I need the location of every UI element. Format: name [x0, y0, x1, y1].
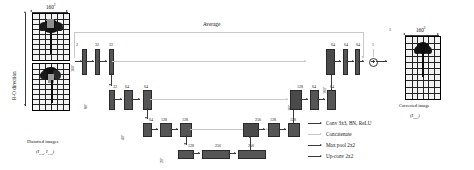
input-level1-res-label: 1602 [71, 65, 75, 72]
distorted-images-symbol: (IPA0, INA0) [36, 150, 54, 156]
dec-l1-ch-2: 64 [356, 43, 360, 47]
enc-l1-ch-1: 32 [95, 43, 99, 47]
output-channel-label: 1 [389, 28, 391, 32]
legend-label-upconv: Up-conv 2x2 [326, 153, 353, 159]
maxpool-arrowhead-icon [320, 144, 322, 146]
upconv-l2-l1 [331, 73, 332, 90]
skip-level2-head [286, 98, 288, 100]
ro-direction-axis [25, 13, 26, 106]
dec-l1-conn-2-head [362, 60, 364, 62]
residual-sum-node [369, 58, 378, 67]
enc-l3-ch-0: 64 [149, 118, 153, 122]
dec-l2-block-1 [310, 90, 319, 110]
enc-l4-ch-0: 128 [188, 144, 194, 148]
legend-label-maxpool: Max pool 2x2 [326, 142, 355, 148]
dec-l1-conn-0-head [339, 60, 341, 62]
enc-l1-ch-2: 32 [109, 43, 113, 47]
output-conn-head [385, 60, 387, 62]
average-skip-drop [363, 32, 364, 58]
pool-l2-l3-head [145, 117, 147, 119]
dec-l1-block-2 [355, 49, 360, 75]
enc-l3-block-0 [143, 123, 152, 137]
corrected-image-symbol: (IPRE) [410, 114, 420, 120]
dec-l1-ch-3: 1 [372, 43, 374, 47]
enc-l1-conn-0-head [92, 60, 94, 62]
enc-l3-conn-0-head [156, 128, 158, 130]
dec-l2-ch-0: 128 [297, 85, 303, 89]
enc-l3-res-label: 402 [121, 135, 125, 140]
average-skip-riser [74, 32, 75, 58]
enc-l4-block-2 [238, 150, 266, 159]
ro-direction-arrowhead-down [24, 104, 26, 106]
residual-drop [373, 49, 374, 57]
average-skip-line [74, 32, 363, 33]
dec-l3-block-0 [243, 123, 259, 137]
enc-l2-ch-0: 32 [113, 85, 117, 89]
dec-l3-conn-0-head [263, 128, 265, 130]
enc-l4-conn-1-head [234, 152, 236, 154]
enc-l4-block-0 [178, 150, 194, 159]
upconv-l4-l3 [250, 138, 251, 150]
enc-l2-res-label: 802 [84, 104, 88, 109]
dec-l2-conn-0-head [306, 98, 308, 100]
conv-arrowhead-icon [320, 122, 322, 124]
distorted-image-na [32, 63, 70, 111]
enc-l1-ch-0: 2 [76, 43, 78, 47]
input-width-arrowhead-left [30, 10, 32, 12]
legend-label-concat: Concatenate [326, 131, 352, 137]
pool-l3-l4-head [184, 143, 186, 145]
enc-l3-block-1 [160, 123, 172, 137]
enc-l4-block-1 [202, 150, 230, 159]
output-size-label: 1602 [416, 27, 426, 33]
enc-l4-ch-2: 256 [248, 144, 254, 148]
enc-l4-ch-1: 256 [215, 144, 221, 148]
enc-l3-conn-1-head [176, 128, 178, 130]
distorted-images-caption: Distorted images [27, 140, 58, 145]
pool-l1-l2-head [109, 84, 111, 86]
figure-canvas: 1602 R-O direction [0, 0, 474, 170]
dec-l1-res-label: 1602 [323, 87, 327, 94]
dec-l1-ch-1: 64 [344, 43, 348, 47]
dec-l1-block-0 [326, 49, 335, 75]
enc-l2-conn-1-head [138, 98, 140, 100]
enc-l2-ch-1: 64 [125, 85, 129, 89]
enc-l1-in-arrowhead [80, 60, 82, 62]
skip-level1 [112, 61, 306, 62]
dec-l3-block-2 [288, 123, 300, 137]
enc-l3-ch-2: 128 [182, 118, 188, 122]
enc-l2-block-2 [143, 90, 152, 110]
skip-level1-head [304, 60, 306, 62]
dec-l3-block-1 [268, 123, 280, 137]
dec-l1-ch-0: 64 [331, 43, 335, 47]
enc-l4-res-label: 202 [160, 158, 164, 163]
distorted-image-pa [32, 13, 70, 61]
dec-l2-block-0 [290, 90, 302, 110]
dec-l2-block-2 [327, 90, 336, 110]
enc-l1-block-1 [95, 49, 100, 75]
average-label: Average [203, 22, 220, 27]
average-skip-arrowhead [362, 56, 364, 58]
skip-level2 [150, 99, 288, 100]
input-size-label: 1602 [46, 4, 56, 10]
enc-l2-conn-0-head [120, 98, 122, 100]
dec-l2-ch-1: 64 [312, 85, 316, 89]
enc-l1-block-2 [109, 49, 114, 75]
dec-l3-ch-1: 128 [270, 118, 276, 122]
enc-l1-block-0 [82, 49, 87, 75]
dec-l3-ch-0: 256 [255, 118, 261, 122]
output-width-arrowhead-left [403, 33, 405, 35]
concat-arrowhead-icon [320, 133, 322, 135]
dec-l1-block-1 [343, 49, 348, 75]
enc-l2-block-1 [124, 90, 133, 110]
legend-label-conv: Conv 3x3, BN, ReLU [326, 120, 371, 126]
dec-l3-conn-1-head [284, 128, 286, 130]
enc-l4-conn-0-head [198, 152, 200, 154]
enc-l2-ch-2: 64 [144, 85, 148, 89]
corrected-image-caption: Corrected image [399, 104, 429, 109]
enc-l1-conn-1-head [105, 60, 107, 62]
enc-l2-block-0 [109, 90, 116, 110]
dec-l2-conn-1-head [323, 98, 325, 100]
upconv-arrowhead-icon [320, 155, 322, 157]
ro-direction-label: R-O direction [12, 71, 17, 100]
enc-l3-ch-1: 128 [161, 118, 167, 122]
